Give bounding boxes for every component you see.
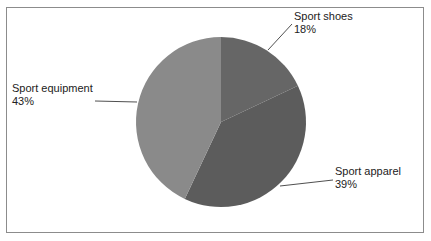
label-name: Sport shoes [294, 10, 353, 23]
data-label-sport-apparel: Sport apparel 39% [335, 165, 401, 191]
data-label-sport-shoes: Sport shoes 18% [294, 10, 353, 36]
label-name: Sport equipment [12, 82, 93, 95]
leader-line-apparel [280, 180, 333, 186]
leader-line-equipment [95, 101, 137, 102]
data-label-sport-equipment: Sport equipment 43% [12, 82, 93, 108]
pie-chart [0, 0, 431, 241]
label-percent: 43% [12, 95, 93, 108]
label-name: Sport apparel [335, 165, 401, 178]
label-percent: 39% [335, 178, 401, 191]
label-percent: 18% [294, 23, 353, 36]
leader-line-shoes [268, 24, 292, 50]
